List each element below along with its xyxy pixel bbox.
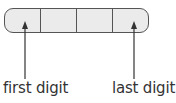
first-digit-arrow-icon	[22, 21, 28, 79]
last-digit-arrow-icon	[131, 21, 137, 79]
first-digit-label: first digit	[3, 79, 68, 97]
last-digit-label: last digit	[112, 79, 175, 97]
